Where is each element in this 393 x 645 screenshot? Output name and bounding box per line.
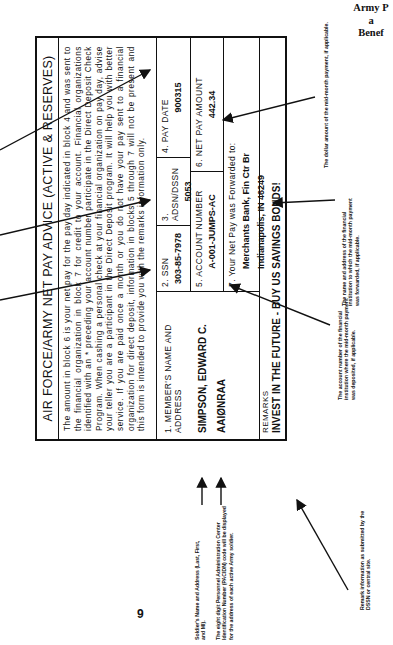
arrow-adsn: [0, 200, 150, 235]
arrow-net-pay: [223, 97, 315, 120]
arrow-ssn: [0, 270, 150, 300]
arrow-remarks: [297, 500, 348, 590]
arrow-bank-address: [273, 200, 335, 203]
arrow-account-number: [230, 285, 330, 325]
arrow-pay-date: [0, 70, 150, 150]
